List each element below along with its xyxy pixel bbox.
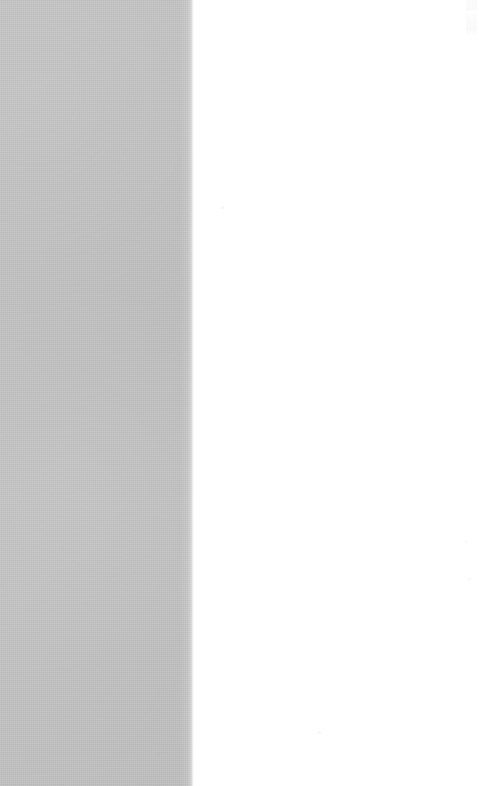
- noise-speck: [221, 206, 224, 209]
- paper-grain-texture: [0, 0, 194, 786]
- noise-speck: [318, 731, 321, 734]
- gray-panel: [0, 0, 194, 786]
- noise-speck: [465, 540, 467, 543]
- screen-root: [0, 0, 479, 786]
- noise-speck: [468, 578, 470, 580]
- corner-smudge-artifact: [466, 0, 477, 36]
- panel-edge-fade: [180, 0, 194, 786]
- white-panel: [194, 0, 479, 786]
